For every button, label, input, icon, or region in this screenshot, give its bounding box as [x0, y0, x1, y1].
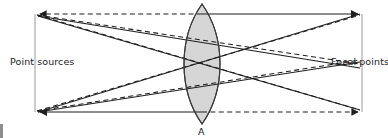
ray-diagram-figure: Point sources Focal points A: [0, 0, 388, 138]
focal-points-label: Focal points: [331, 56, 388, 67]
ray-diagram-canvas: [0, 0, 388, 138]
page-edge-mark: [0, 124, 3, 138]
point-sources-label: Point sources: [10, 56, 74, 67]
lens-a-label: A: [198, 126, 205, 137]
